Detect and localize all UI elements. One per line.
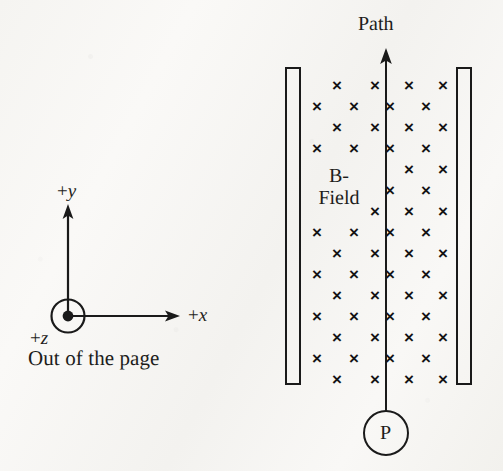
into-page-cross: × (312, 308, 322, 325)
into-page-cross: × (385, 98, 395, 115)
into-page-cross: × (370, 203, 380, 220)
into-page-cross: × (404, 245, 414, 262)
into-page-cross: × (404, 119, 414, 136)
b-field-label: B-Field (309, 165, 369, 210)
into-page-cross: × (349, 350, 359, 367)
into-page-cross: × (385, 224, 395, 241)
path-label: Path (358, 14, 394, 34)
into-page-cross: × (404, 287, 414, 304)
into-page-cross: × (421, 308, 431, 325)
into-page-cross: × (421, 224, 431, 241)
into-page-cross: × (370, 245, 380, 262)
into-page-cross: × (370, 329, 380, 346)
physics-diagram: ××××××××××××××××××××××××××××××××××××××××… (0, 0, 503, 471)
into-page-cross: × (370, 119, 380, 136)
b-field-label-line1: B- (329, 165, 349, 187)
into-page-cross: × (332, 119, 342, 136)
into-page-cross: × (312, 266, 322, 283)
into-page-cross: × (385, 182, 395, 199)
into-page-cross: × (385, 350, 395, 367)
into-page-cross: × (370, 77, 380, 94)
into-page-cross: × (385, 266, 395, 283)
y-axis-label-sign: + (57, 181, 68, 202)
particle-label: P (380, 423, 391, 443)
out-of-page-label: Out of the page (28, 348, 160, 369)
into-page-cross: × (332, 329, 342, 346)
into-page-cross: × (404, 329, 414, 346)
into-page-cross: × (438, 119, 448, 136)
out-of-page-dot (63, 311, 74, 322)
into-page-cross: × (421, 266, 431, 283)
x-axis-label-sign: + (188, 305, 199, 326)
into-page-cross: × (312, 224, 322, 241)
into-page-cross: × (404, 161, 414, 178)
into-page-cross: × (421, 350, 431, 367)
into-page-cross: × (349, 140, 359, 157)
into-page-cross: × (312, 140, 322, 157)
into-page-cross: × (421, 140, 431, 157)
into-page-cross: × (385, 308, 395, 325)
x-axis-label-var: x (199, 305, 207, 326)
into-page-cross: × (312, 350, 322, 367)
y-axis-label: +y (57, 182, 76, 201)
into-page-cross: × (438, 77, 448, 94)
into-page-cross: × (438, 371, 448, 388)
into-page-cross: × (349, 266, 359, 283)
into-page-cross: × (404, 77, 414, 94)
into-page-cross: × (349, 308, 359, 325)
coordinate-axes (52, 204, 181, 333)
into-page-cross: × (438, 287, 448, 304)
into-page-cross: × (438, 245, 448, 262)
into-page-cross: × (404, 371, 414, 388)
into-page-cross: × (349, 224, 359, 241)
into-page-cross: × (332, 287, 342, 304)
right-plate (457, 68, 471, 384)
into-page-cross: × (438, 161, 448, 178)
into-page-cross: × (312, 98, 322, 115)
into-page-cross: × (349, 98, 359, 115)
into-page-cross: × (332, 77, 342, 94)
left-plate (286, 68, 300, 384)
into-page-cross: × (332, 245, 342, 262)
into-page-cross: × (421, 98, 431, 115)
into-page-cross: × (438, 203, 448, 220)
x-axis-label: +x (188, 306, 207, 325)
into-page-cross: × (404, 203, 414, 220)
y-axis-label-var: y (68, 181, 76, 202)
into-page-cross: × (370, 287, 380, 304)
into-page-cross: × (421, 182, 431, 199)
into-page-cross: × (370, 371, 380, 388)
into-page-cross: × (438, 329, 448, 346)
into-page-cross: × (385, 140, 395, 157)
into-page-cross: × (332, 371, 342, 388)
b-field-label-line2: Field (318, 187, 359, 209)
